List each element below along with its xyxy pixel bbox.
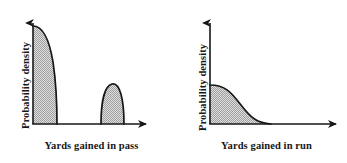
y-axis-label-pass: Probability density: [20, 42, 31, 129]
x-axis-label-run: Yards gained in run: [173, 139, 346, 152]
two-panel-probability-density-figure: Probability density Yards gained in pass…: [0, 0, 347, 163]
density-area-pass-secondary-mode: [101, 84, 124, 124]
y-axis-label-run: Probability density: [197, 44, 208, 131]
panel-yards-gained-in-pass: Probability density Yards gained in pass: [0, 0, 173, 163]
density-area-pass-primary-mode: [33, 26, 57, 124]
x-axis-label-pass: Yards gained in pass: [0, 139, 173, 152]
panel-yards-gained-in-run: Probability density Yards gained in run: [173, 0, 346, 163]
